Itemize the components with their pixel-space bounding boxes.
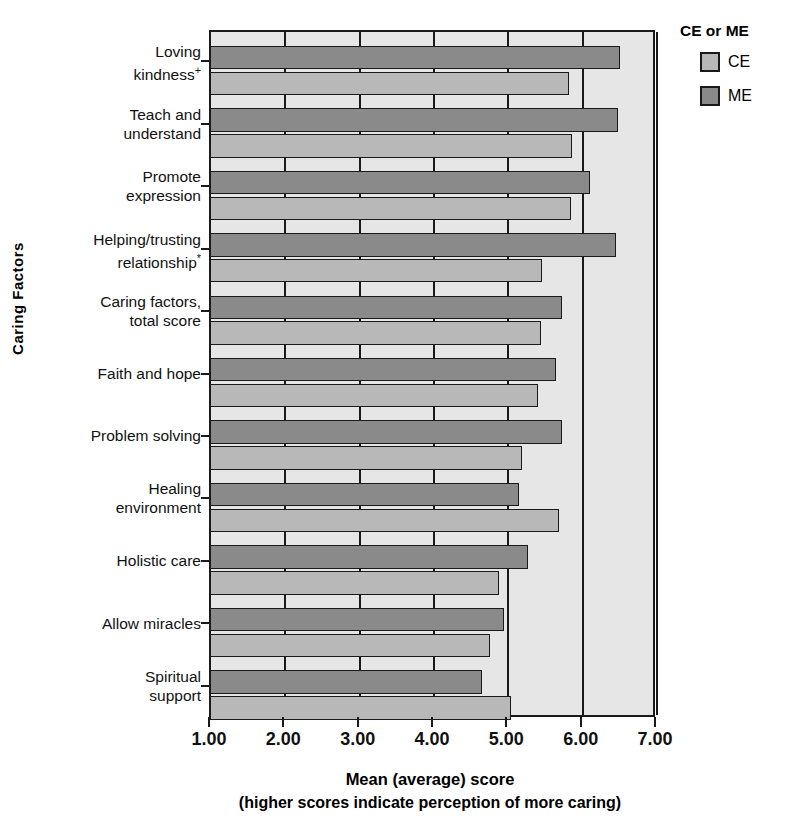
bar-me[interactable] [210, 545, 528, 568]
y-axis-label: Spiritualsupport [19, 667, 209, 705]
y-axis-tick [201, 497, 209, 499]
legend-swatch-ce [700, 52, 720, 72]
x-axis-tick [580, 717, 582, 727]
bar-me[interactable] [210, 108, 618, 131]
legend-swatch-me [700, 86, 720, 106]
x-axis-tick-label: 2.00 [253, 729, 313, 750]
y-axis-label-line: Healing [19, 479, 201, 498]
legend-entry-ce[interactable]: CE [700, 52, 790, 72]
bar-ce[interactable] [210, 134, 572, 157]
bar-ce[interactable] [210, 509, 559, 532]
y-axis-label: Lovingkindness+ [19, 42, 209, 84]
y-axis-label: Faith and hope [19, 364, 209, 383]
bar-ce[interactable] [210, 72, 569, 95]
y-axis-label: Caring factors,total score [19, 292, 209, 330]
x-axis-title-subtitle: (higher scores indicate perception of mo… [150, 791, 710, 814]
y-axis-label: Holistic care [19, 551, 209, 570]
bar-ce[interactable] [210, 571, 499, 594]
x-axis-tick-label: 7.00 [625, 729, 685, 750]
y-axis-tick [201, 248, 209, 250]
y-axis-label: Allow miracles [19, 614, 209, 633]
y-axis-tick [201, 435, 209, 437]
y-axis-label-line: support [19, 686, 201, 705]
y-axis-tick [201, 685, 209, 687]
y-axis-label: Problem solving [19, 426, 209, 445]
bar-ce[interactable] [210, 197, 571, 220]
x-axis-tick [208, 717, 210, 727]
y-axis-tick [201, 310, 209, 312]
x-axis-tick [357, 717, 359, 727]
x-axis-tick [654, 717, 656, 727]
legend-label-ce: CE [728, 53, 750, 71]
x-axis-tick-label: 4.00 [402, 729, 462, 750]
y-axis-tick [201, 373, 209, 375]
y-axis-label-line: environment [19, 498, 201, 517]
bar-ce[interactable] [210, 384, 538, 407]
x-axis-tick [282, 717, 284, 727]
x-axis-title: Mean (average) score (higher scores indi… [150, 768, 710, 814]
x-axis-title-main: Mean (average) score [150, 768, 710, 791]
bar-ce[interactable] [210, 259, 542, 282]
y-axis-label-line: kindness+ [19, 61, 201, 84]
y-axis-label-line: Allow miracles [19, 614, 201, 633]
legend-title: CE or ME [680, 22, 790, 40]
gridline [582, 32, 584, 715]
x-axis-tick-label: 5.00 [476, 729, 536, 750]
y-axis-tick [201, 185, 209, 187]
x-axis-tick-label: 3.00 [328, 729, 388, 750]
x-axis-tick [431, 717, 433, 727]
footnote-marker-plus: + [195, 64, 201, 76]
legend-label-me: ME [728, 87, 752, 105]
legend-entry-me[interactable]: ME [700, 86, 790, 106]
bar-me[interactable] [210, 296, 562, 319]
bar-me[interactable] [210, 670, 482, 693]
bar-me[interactable] [210, 483, 519, 506]
y-axis-label-line: Problem solving [19, 426, 201, 445]
bar-me[interactable] [210, 358, 556, 381]
y-axis-label-line: Spiritual [19, 667, 201, 686]
y-axis-tick [201, 60, 209, 62]
bar-me[interactable] [210, 608, 504, 631]
y-axis-label-line: Loving [19, 42, 201, 61]
plot-area [209, 30, 655, 717]
bar-ce[interactable] [210, 634, 490, 657]
bar-me[interactable] [210, 171, 590, 194]
y-axis-label-line: Faith and hope [19, 364, 201, 383]
y-axis-label-line: understand [19, 124, 201, 143]
x-axis-tick [505, 717, 507, 727]
gridline [656, 32, 658, 715]
y-axis-category-labels: Lovingkindness+Teach andunderstandPromot… [10, 30, 209, 717]
y-axis-tick [201, 123, 209, 125]
y-axis-tick [201, 622, 209, 624]
y-axis-label-line: Teach and [19, 105, 201, 124]
y-axis-label: Promoteexpression [19, 167, 209, 205]
y-axis-label-line: relationship* [19, 249, 201, 272]
y-axis-label-line: total score [19, 311, 201, 330]
x-axis-ticks: 1.002.003.004.005.006.007.00 [209, 717, 655, 727]
y-axis-label: Healingenvironment [19, 479, 209, 517]
y-axis-label-line: Caring factors, [19, 292, 201, 311]
y-axis-label-line: Promote [19, 167, 201, 186]
bar-me[interactable] [210, 46, 620, 69]
y-axis-tick [201, 560, 209, 562]
bar-me[interactable] [210, 233, 616, 256]
bar-ce[interactable] [210, 446, 522, 469]
footnote-marker-asterisk: * [197, 252, 201, 264]
x-axis-tick-label: 1.00 [179, 729, 239, 750]
y-axis-label: Teach andunderstand [19, 105, 209, 143]
x-axis-tick-label: 6.00 [551, 729, 611, 750]
y-axis-label-line: Holistic care [19, 551, 201, 570]
y-axis-label-line: expression [19, 186, 201, 205]
legend: CE or ME CE ME [680, 22, 790, 120]
bar-me[interactable] [210, 420, 562, 443]
y-axis-label-line: Helping/trusting [19, 230, 201, 249]
bar-chart: Caring Factors Lovingkindness+Teach andu… [0, 0, 794, 825]
bar-ce[interactable] [210, 321, 541, 344]
y-axis-label: Helping/trustingrelationship* [19, 230, 209, 272]
